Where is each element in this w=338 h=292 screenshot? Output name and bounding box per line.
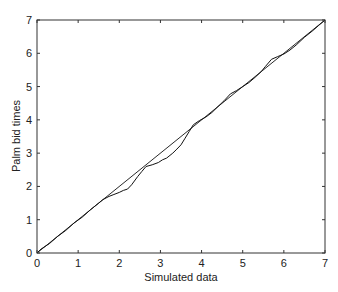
- y-tick-label: 5: [26, 81, 32, 93]
- y-axis-ticks: 01234567: [26, 14, 325, 259]
- y-tick-label: 0: [26, 247, 32, 259]
- y-axis-label: Palm bid times: [10, 99, 22, 172]
- qq-plot: 01234567 01234567 Simulated data Palm bi…: [0, 0, 338, 292]
- x-tick-label: 5: [240, 257, 246, 269]
- y-tick-label: 1: [26, 214, 32, 226]
- x-axis-label: Simulated data: [144, 271, 218, 283]
- x-tick-label: 3: [157, 257, 163, 269]
- plot-lines: [37, 20, 325, 253]
- y-tick-label: 2: [26, 180, 32, 192]
- x-tick-label: 4: [199, 257, 205, 269]
- x-tick-label: 1: [75, 257, 81, 269]
- y-tick-label: 6: [26, 47, 32, 59]
- y-tick-label: 7: [26, 14, 32, 26]
- x-tick-label: 6: [281, 257, 287, 269]
- x-tick-label: 7: [322, 257, 328, 269]
- x-tick-label: 2: [116, 257, 122, 269]
- y-tick-label: 4: [26, 114, 32, 126]
- y-tick-label: 3: [26, 147, 32, 159]
- x-tick-label: 0: [34, 257, 40, 269]
